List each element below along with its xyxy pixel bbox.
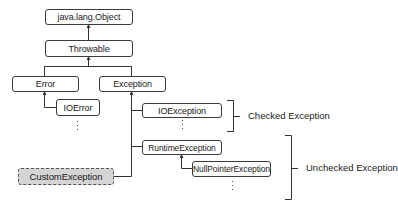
node-exception: Exception bbox=[99, 76, 166, 92]
node-runtimeexception: RuntimeException bbox=[142, 140, 222, 155]
node-ioerror: IOError bbox=[56, 99, 100, 116]
node-java-lang-object: java.lang.Object bbox=[45, 9, 133, 25]
ellipsis-nullpointer bbox=[232, 181, 234, 193]
node-ioexception: IOException bbox=[142, 103, 222, 118]
label-checked-exception: Checked Exception bbox=[248, 110, 330, 121]
ellipsis-ioexception bbox=[182, 120, 184, 132]
node-throwable: Throwable bbox=[45, 40, 133, 57]
ellipsis-ioerror bbox=[77, 121, 79, 133]
label-unchecked-exception: Unchecked Exception bbox=[306, 162, 398, 173]
node-customexception: CustomException bbox=[18, 168, 114, 185]
node-error: Error bbox=[12, 76, 79, 92]
node-nullpointerexception: NullPointerException bbox=[192, 161, 271, 177]
